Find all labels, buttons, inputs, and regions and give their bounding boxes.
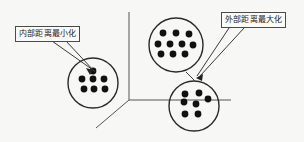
data-point (173, 30, 180, 37)
leader-lines (52, 28, 244, 82)
data-point (193, 101, 200, 108)
data-point (170, 51, 177, 58)
cluster-top-right-points (155, 30, 197, 58)
data-point (158, 51, 165, 58)
cluster-left-outline (68, 58, 118, 108)
axes-group (96, 12, 231, 128)
data-point (182, 91, 189, 98)
data-point (79, 76, 86, 83)
leader-line-intra-b (66, 41, 95, 72)
cluster-bottom-right-points (181, 90, 212, 118)
data-point (186, 31, 193, 38)
data-point (182, 111, 189, 118)
data-point (179, 41, 186, 48)
cluster-left-points (79, 68, 109, 93)
data-point (101, 76, 108, 83)
data-point (167, 41, 174, 48)
data-point (160, 30, 167, 37)
leader-line-intra-a (52, 41, 93, 70)
data-point (155, 41, 162, 48)
data-point (196, 90, 203, 97)
data-point (181, 99, 188, 106)
diagonal-axis (96, 100, 129, 128)
leader-line-inter-b (200, 28, 244, 76)
data-point (91, 86, 98, 93)
callout-intra-label: 内部距离最小化 (19, 29, 76, 38)
clustering-diagram: 内部距离最小化 外部距离最大化 (0, 0, 304, 142)
callout-inter-label: 外部距离最大化 (225, 15, 282, 24)
data-point (102, 86, 109, 93)
data-point (195, 111, 202, 118)
callout-intra-cluster-distance: 内部距离最小化 (15, 26, 80, 42)
data-point (190, 42, 197, 49)
callout-inter-cluster-distance: 外部距离最大化 (221, 12, 286, 28)
data-point (81, 86, 88, 93)
data-point (90, 76, 97, 83)
data-point (182, 51, 189, 58)
data-point (205, 96, 212, 103)
